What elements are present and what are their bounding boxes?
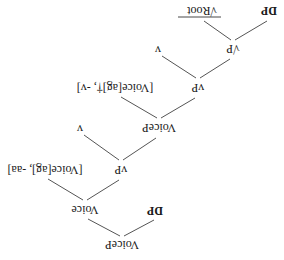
node-spec-dp: DP xyxy=(147,204,163,218)
node-voice-features: [Voice[ag], -aa] xyxy=(7,163,82,177)
node-voice-features-dagger: [Voice[ag]†, -v] xyxy=(77,81,153,95)
edge-vp-voicep xyxy=(123,138,156,160)
edge-rootp-dp xyxy=(235,21,267,40)
edge-vp-rootp xyxy=(200,59,230,78)
node-root: √Root xyxy=(186,4,217,18)
edge-voice-features xyxy=(48,179,83,200)
edge-voice-vp xyxy=(87,180,119,200)
edge-voicep-vp-upper xyxy=(161,98,195,118)
node-voice-head: Voice xyxy=(71,203,98,217)
syntax-tree-diagram: VoiceP DP Voice vP [Voice[ag], -aa] Voic… xyxy=(0,0,284,260)
node-upper-vp: vP xyxy=(191,81,204,95)
node-upper-v: v xyxy=(155,43,161,57)
edge-vp-v-upper xyxy=(162,56,196,78)
node-mid-voicep: VoiceP xyxy=(142,121,176,135)
node-lower-vp: vP xyxy=(114,163,127,177)
node-complement-dp: DP xyxy=(261,4,277,18)
edge-voicep-features-dagger xyxy=(121,97,157,118)
edge-voicep-dp xyxy=(124,220,154,236)
edge-voicep-voice xyxy=(88,219,120,236)
edge-vp-v xyxy=(84,135,119,160)
edge-rootp-root xyxy=(204,21,231,40)
node-lower-v: v xyxy=(77,122,83,136)
node-root-voicep: VoiceP xyxy=(105,238,139,252)
node-root-p: √P xyxy=(226,42,240,56)
